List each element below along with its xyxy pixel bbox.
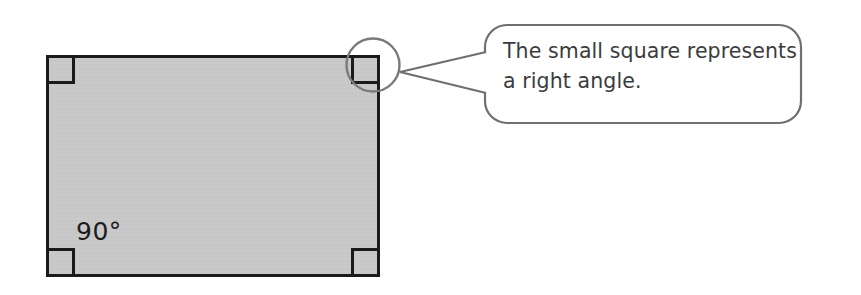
angle-measure-label: 90°	[76, 219, 122, 244]
callout-text-line-1: The small square represents	[503, 36, 793, 66]
callout-tail	[400, 52, 486, 93]
diagram-canvas: 90° The small square represents a right …	[0, 0, 861, 295]
callout-text: The small square represents a right angl…	[503, 36, 793, 96]
callout-text-line-2: a right angle.	[503, 66, 793, 96]
